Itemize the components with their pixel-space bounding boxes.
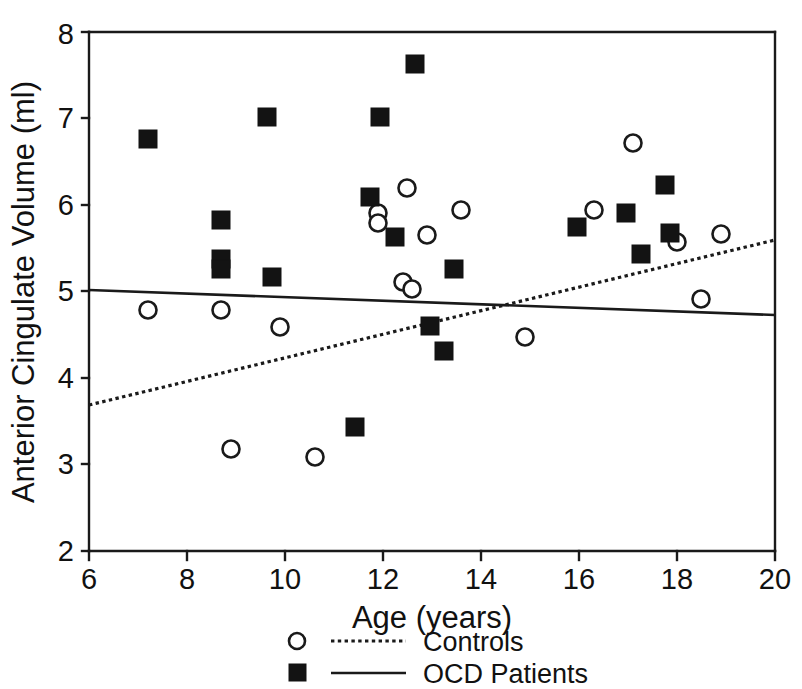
data-point-control — [140, 302, 157, 319]
data-point-ocd — [263, 268, 281, 286]
legend-entry-ocd: OCD Patients — [289, 659, 588, 689]
data-point-control — [693, 291, 710, 308]
data-point-ocd — [568, 218, 586, 236]
data-point-control — [586, 202, 603, 219]
y-tick-label-6: 6 — [58, 189, 74, 221]
data-point-ocd — [445, 260, 463, 278]
data-point-ocd — [212, 260, 230, 278]
x-tick-label-6: 6 — [81, 563, 97, 595]
x-tick-label-20: 20 — [759, 563, 791, 595]
x-tick-label-16: 16 — [563, 563, 595, 595]
y-tick-labels: 2 3 4 5 6 7 8 — [58, 18, 74, 567]
ocd-fit-line — [89, 290, 775, 315]
data-point-control — [713, 226, 730, 243]
data-point-ocd — [258, 108, 276, 126]
x-tick-label-18: 18 — [661, 563, 693, 595]
data-point-ocd — [617, 204, 635, 222]
y-tick-label-2: 2 — [58, 535, 74, 567]
data-point-ocd — [371, 108, 389, 126]
data-point-control — [517, 329, 534, 346]
data-point-control — [307, 449, 324, 466]
legend-label-controls: Controls — [423, 627, 524, 657]
data-point-ocd — [435, 342, 453, 360]
data-point-ocd — [656, 176, 674, 194]
data-point-ocd — [421, 317, 439, 335]
data-point-control — [272, 319, 289, 336]
legend-open-circle-icon — [289, 633, 305, 649]
data-point-ocd — [139, 130, 157, 148]
controls-points — [140, 135, 730, 466]
x-tick-label-14: 14 — [465, 563, 497, 595]
x-tick-label-12: 12 — [367, 563, 399, 595]
data-point-control — [213, 302, 230, 319]
data-point-ocd — [361, 188, 379, 206]
data-point-ocd — [212, 211, 230, 229]
chart-canvas: 2 3 4 5 6 7 8 6 8 10 12 14 16 18 — [0, 0, 802, 689]
y-tick-label-4: 4 — [58, 362, 74, 394]
x-tick-label-8: 8 — [179, 563, 195, 595]
scatter-plot-figure: 2 3 4 5 6 7 8 6 8 10 12 14 16 18 — [0, 0, 802, 689]
data-point-control — [419, 227, 436, 244]
x-tick-marks — [89, 551, 775, 560]
data-point-control — [404, 281, 421, 298]
data-point-ocd — [346, 418, 364, 436]
plot-frame — [89, 32, 775, 551]
data-point-control — [625, 135, 642, 152]
y-axis-title: Anterior Cingulate Volume (ml) — [6, 81, 41, 503]
data-point-ocd — [632, 245, 650, 263]
chart-legend: Controls OCD Patients — [289, 627, 588, 689]
ocd-points — [139, 55, 679, 436]
y-tick-label-8: 8 — [58, 18, 74, 50]
legend-filled-square-icon — [289, 664, 306, 681]
y-tick-label-3: 3 — [58, 448, 74, 480]
data-point-control — [370, 215, 387, 232]
x-tick-labels: 6 8 10 12 14 16 18 20 — [81, 563, 791, 595]
data-point-ocd — [386, 228, 404, 246]
legend-label-ocd-patients: OCD Patients — [423, 659, 588, 689]
y-tick-label-7: 7 — [58, 102, 74, 134]
x-tick-label-10: 10 — [269, 563, 301, 595]
data-point-ocd — [661, 224, 679, 242]
data-point-control — [453, 202, 470, 219]
data-point-ocd — [406, 55, 424, 73]
data-point-control — [399, 180, 416, 197]
data-point-control — [223, 441, 240, 458]
y-tick-label-5: 5 — [58, 275, 74, 307]
